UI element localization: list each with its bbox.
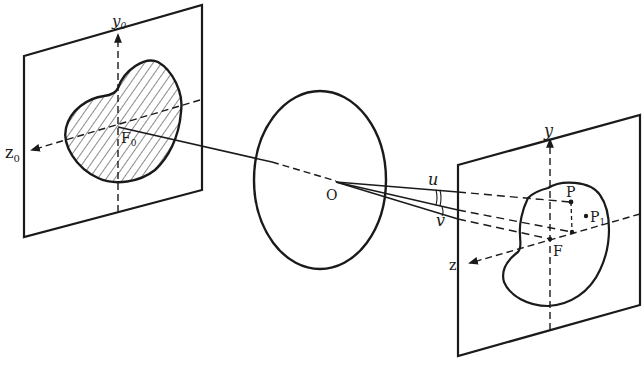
point-p-label: P [566,184,575,200]
object-y-axis-label: y0 [111,12,126,31]
point-p-foot [570,230,574,234]
point-p1 [584,214,588,218]
ray-to-foot-dashed [458,210,572,232]
rays [336,182,572,239]
ray-to-f-dashed [458,219,550,239]
ray-to-p-dashed [458,192,570,202]
optics-diagram: y0 z0 F0 O u v y [0,0,644,368]
angle-v-label: v [436,211,445,230]
angle-u-label: u [428,170,438,189]
object-z-axis-label: z0 [5,143,20,164]
image-origin-label: F [553,243,563,259]
image-y-axis-label: y [543,121,554,140]
angle-u-arc-double [440,190,441,206]
object-shape [65,61,181,183]
angle-u-arc [436,190,437,205]
point-p [569,200,574,205]
image-plane: y z F P P1 [449,115,640,356]
optical-axis-dashed [272,162,336,181]
p-projection-line [571,202,572,232]
object-plane: y0 z0 F0 [5,5,202,237]
point-f [548,237,552,241]
image-z-axis-label: z [449,257,456,273]
point-p1-label: P1 [590,209,605,227]
lens [254,91,386,269]
lens-center-label: O [326,187,337,203]
image-plane-frame [458,115,640,356]
